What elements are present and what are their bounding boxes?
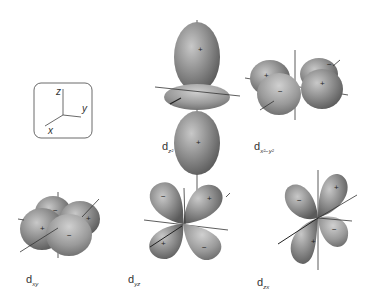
sign-minus: − <box>202 244 207 252</box>
label-dx2-y2: dx²−y² <box>254 140 274 154</box>
sign-minus: − <box>297 197 302 205</box>
orbital-dx2-y2 <box>245 50 348 120</box>
sign-minus: − <box>67 232 72 240</box>
sign-plus: + <box>320 80 325 88</box>
orbital-dzx <box>278 170 357 270</box>
orbital-dyz <box>144 182 230 260</box>
sign-minus: − <box>161 193 166 201</box>
label-dyz: dyz <box>128 273 140 287</box>
sign-minus: − <box>278 88 283 96</box>
sign-plus: + <box>311 238 316 246</box>
sign-minus: − <box>332 226 337 234</box>
sign-plus: + <box>198 46 203 54</box>
axis-label-x: x <box>48 125 53 136</box>
sign-minus: − <box>53 207 58 215</box>
axis-label-z: z <box>56 86 61 97</box>
sign-plus: + <box>196 139 201 147</box>
sign-plus: + <box>86 215 91 223</box>
sign-plus: + <box>161 240 166 248</box>
orbital-diagram <box>0 0 373 308</box>
label-dz2: dz² <box>162 140 173 154</box>
sign-minus: − <box>327 61 332 69</box>
sign-plus: + <box>334 184 339 192</box>
label-dxy: dxy <box>26 273 38 287</box>
label-dzx: dzx <box>257 276 269 290</box>
sign-plus: + <box>40 225 45 233</box>
sign-plus: + <box>207 195 212 203</box>
orbital-dxy <box>18 192 100 258</box>
sign-plus: + <box>264 72 269 80</box>
axis-label-y: y <box>82 103 87 114</box>
